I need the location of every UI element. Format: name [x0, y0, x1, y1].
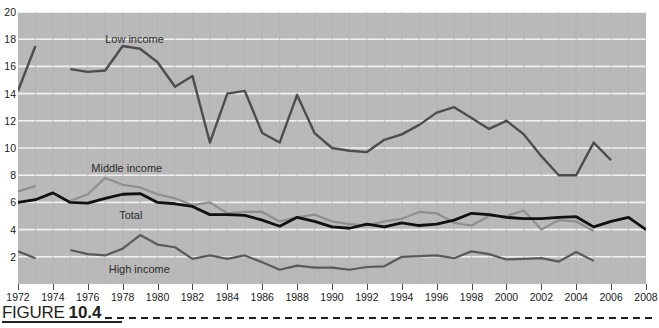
x-tick-label: 1980 [146, 291, 169, 303]
series-label-low-income: Low income [105, 33, 164, 45]
x-tick-label: 1978 [111, 291, 134, 303]
x-tick-mark [18, 284, 19, 290]
x-tick-label: 1992 [355, 291, 378, 303]
series-line-low-income [18, 46, 35, 91]
figure-label-number: 10.4 [68, 304, 101, 322]
x-tick-mark [437, 284, 438, 290]
series-label-high-income: High income [109, 263, 170, 275]
figure-container: Low income Middle income Total High inco… [0, 0, 659, 328]
x-tick-label: 1998 [460, 291, 483, 303]
x-tick-label: 2000 [495, 291, 518, 303]
x-tick-mark [88, 284, 89, 290]
x-tick-label: 2004 [565, 291, 588, 303]
x-tick-label: 1994 [390, 291, 413, 303]
x-tick-mark [541, 284, 542, 290]
x-tick-label: 1982 [181, 291, 204, 303]
y-tick-label: 14 [4, 89, 16, 99]
x-tick-label: 1976 [76, 291, 99, 303]
series-line-middle-income [18, 186, 35, 191]
x-tick-mark [472, 284, 473, 290]
figure-label-word: FIGURE [2, 304, 64, 322]
y-tick-label: 18 [4, 34, 16, 44]
y-tick-label: 20 [4, 7, 16, 17]
x-tick-label: 1984 [216, 291, 239, 303]
y-tick-label: 2 [10, 252, 16, 262]
y-tick-label: 16 [4, 61, 16, 71]
x-tick-mark [332, 284, 333, 290]
x-tick-label: 2008 [634, 291, 657, 303]
y-tick-label: 4 [10, 225, 16, 235]
x-tick-mark [192, 284, 193, 290]
x-tick-label: 1996 [425, 291, 448, 303]
x-tick-mark [123, 284, 124, 290]
caption-underline [2, 321, 122, 323]
x-tick-mark [53, 284, 54, 290]
x-tick-mark [227, 284, 228, 290]
y-tick-label: 10 [4, 143, 16, 153]
chart-plot-area: Low income Middle income Total High inco… [18, 12, 646, 284]
caption-dashed-rule [105, 317, 657, 319]
x-tick-mark [158, 284, 159, 290]
y-tick-label: 6 [10, 197, 16, 207]
x-tick-label: 2002 [530, 291, 553, 303]
x-tick-label: 1990 [320, 291, 343, 303]
x-tick-label: 1986 [251, 291, 274, 303]
x-tick-mark [402, 284, 403, 290]
x-tick-label: 1988 [285, 291, 308, 303]
series-label-total: Total [119, 209, 142, 221]
y-tick-label: 12 [4, 116, 16, 126]
line-chart [18, 12, 646, 284]
x-tick-mark [506, 284, 507, 290]
x-tick-label: 1974 [41, 291, 64, 303]
y-axis: 2468101214161820 [0, 0, 18, 290]
x-tick-mark [262, 284, 263, 290]
x-tick-mark [367, 284, 368, 290]
x-tick-mark [611, 284, 612, 290]
x-tick-mark [297, 284, 298, 290]
series-line-low-income [70, 46, 611, 175]
x-tick-mark [576, 284, 577, 290]
series-label-middle-income: Middle income [91, 162, 162, 174]
x-tick-label: 2006 [599, 291, 622, 303]
y-tick-label: 8 [10, 170, 16, 180]
x-tick-mark [646, 284, 647, 290]
x-tick-label: 1972 [6, 291, 29, 303]
